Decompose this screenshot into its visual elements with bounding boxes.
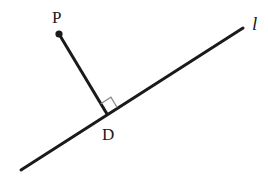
label-line-l: l [252,13,257,34]
diagram-canvas: P D l [0,0,268,185]
label-p: P [52,8,61,27]
segment-pd [59,34,107,114]
point-p-dot [55,30,62,37]
geometry-figure: P D l [0,0,268,185]
line-l [21,28,243,170]
label-d: D [102,125,114,144]
